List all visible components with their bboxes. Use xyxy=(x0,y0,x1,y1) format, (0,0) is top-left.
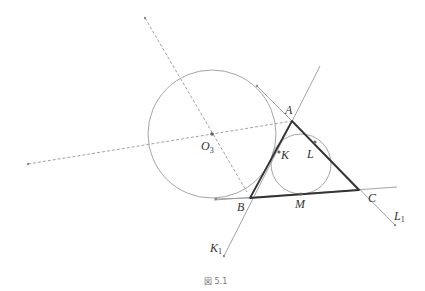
tangent-point-lower xyxy=(215,198,217,200)
label-m: M xyxy=(294,197,306,211)
tangent-point-upper xyxy=(256,85,258,87)
k1-point xyxy=(223,255,225,257)
label-a: A xyxy=(284,103,293,117)
triangle-abc xyxy=(250,121,359,198)
label-k1: K1 xyxy=(209,241,222,256)
dashed-line-endpoint xyxy=(144,17,146,19)
l-point xyxy=(313,140,316,143)
dashed-line-endpoint xyxy=(27,163,29,165)
label-k: K xyxy=(280,148,290,162)
dashed-line-o3-perpendicular xyxy=(145,18,247,192)
l1-point xyxy=(394,224,396,226)
line-k1 xyxy=(224,66,320,256)
label-l1: L1 xyxy=(393,209,405,224)
label-b: B xyxy=(237,200,245,214)
label-l: L xyxy=(306,147,314,161)
label-c: C xyxy=(368,191,377,205)
o3-center-point xyxy=(210,132,214,136)
dashed-line-o3-horizontal xyxy=(28,121,292,164)
m-point xyxy=(299,192,302,195)
figure-caption: 図 5.1 xyxy=(204,277,227,286)
label-o3: O3 xyxy=(201,139,214,155)
geometry-figure: A B C K L M O3 K1 L1 図 5.1 xyxy=(0,0,425,291)
